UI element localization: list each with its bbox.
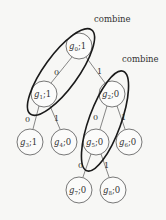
svg-text:g3;1: g3;1: [20, 137, 37, 148]
svg-text:g2;0: g2;0: [102, 89, 119, 100]
edge-label-g0-g1: 0: [54, 68, 59, 77]
node-g4: g4;0: [51, 129, 77, 155]
edge-g0-g2: [86, 57, 105, 83]
node-g5: g5;0: [83, 129, 109, 155]
svg-text:g7;0: g7;0: [69, 185, 86, 196]
svg-text:g1;1: g1;1: [34, 89, 51, 100]
node-g6: g6;0: [116, 129, 142, 155]
node-g1: g1;1: [31, 81, 57, 107]
combine-group-2-ellipse: [72, 66, 138, 177]
edge-g2-g5: [100, 106, 107, 129]
svg-text:g4;0: g4;0: [54, 137, 71, 148]
svg-text:g6;0: g6;0: [119, 137, 136, 148]
edge-label-g0-g2: 1: [97, 67, 102, 76]
edge-label-g5-g8: 1: [104, 161, 109, 170]
edge-label-g1-g3: 0: [25, 115, 30, 124]
svg-text:g8;0: g8;0: [103, 185, 120, 196]
edge-label-g1-g4: 1: [54, 114, 59, 123]
node-g3: g3;1: [17, 129, 43, 155]
combine-label-2: combine: [122, 54, 159, 64]
node-g7: g7;0: [66, 177, 92, 203]
svg-text:g5;0: g5;0: [86, 137, 103, 148]
edge-label-g2-g5: 0: [93, 113, 98, 122]
combine-label-1: combine: [94, 14, 131, 24]
svg-text:g0;1: g0;1: [69, 41, 86, 52]
tree-diagram: 0 1 0 1 0 1 0 1 g0;1 g1;1 g2;0 g3;1 g4;0: [0, 0, 166, 220]
edge-g5-g7: [83, 154, 91, 177]
node-g2: g2;0: [99, 81, 125, 107]
edge-g1-g3: [33, 106, 39, 129]
node-g8: g8;0: [100, 177, 126, 203]
